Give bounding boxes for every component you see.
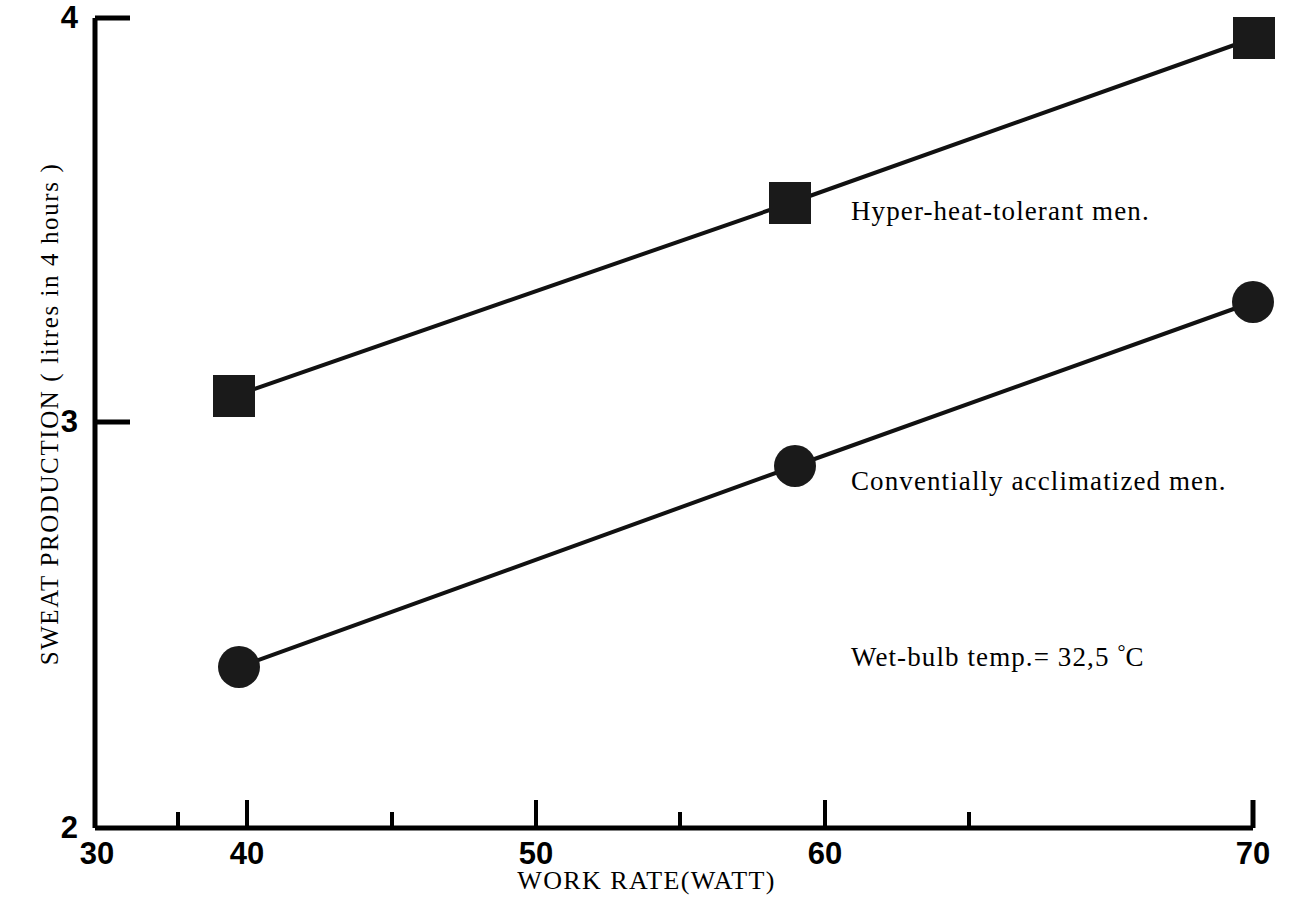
wet-bulb-temp-unit: C	[1125, 642, 1144, 672]
plot-canvas	[0, 0, 1293, 913]
chart-figure: 4 3 2 30 40 50 60 70 SWEAT PRODUCTION ( …	[0, 0, 1293, 913]
y-axis-ticks	[95, 18, 130, 422]
x-axis-ticks	[178, 800, 1253, 828]
data-point-marker	[1233, 17, 1275, 59]
data-point-marker	[1232, 281, 1274, 323]
data-point-marker	[218, 646, 260, 688]
series-label-conventially-acclimatized-men: Conventially acclimatized men.	[851, 466, 1227, 497]
x-tick-label-50: 50	[496, 838, 576, 869]
y-tick-label-4: 4	[30, 2, 78, 33]
x-tick-label-70: 70	[1213, 838, 1293, 869]
wet-bulb-temp-text: Wet-bulb temp.= 32,5	[851, 642, 1117, 672]
data-point-marker	[213, 375, 255, 417]
data-point-marker	[774, 445, 816, 487]
y-axis-title: SWEAT PRODUCTION ( litres in 4 hours )	[36, 34, 64, 794]
x-tick-label-60: 60	[785, 838, 865, 869]
axis-spines	[95, 18, 1253, 828]
x-tick-label-30: 30	[57, 838, 137, 869]
wet-bulb-temp-note: Wet-bulb temp.= 32,5 °C	[851, 641, 1144, 673]
x-tick-label-40: 40	[207, 838, 287, 869]
x-axis-title: WORK RATE(WATT)	[0, 866, 1293, 896]
series-label-hyper-heat-tolerant-men: Hyper-heat-tolerant men.	[851, 196, 1150, 227]
data-point-marker	[769, 182, 811, 224]
